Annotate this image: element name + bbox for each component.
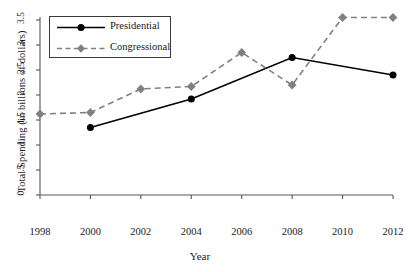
legend-item-presidential: Presidential xyxy=(50,17,172,38)
y-tick-label: 0 xyxy=(16,180,26,206)
x-tick-label: 2004 xyxy=(171,226,211,237)
data-point-congressional xyxy=(187,82,196,91)
y-tick-label: 1.5 xyxy=(16,105,26,131)
data-point-presidential xyxy=(188,96,195,103)
presidential-line-swatch-icon xyxy=(55,17,107,38)
data-point-congressional xyxy=(237,48,246,57)
y-tick-label: 2 xyxy=(16,80,26,106)
y-tick-label: 3 xyxy=(16,30,26,56)
y-tick-label: .5 xyxy=(16,155,26,181)
x-tick-label: 2000 xyxy=(70,226,110,237)
data-point-congressional xyxy=(389,13,398,22)
series-line-presidential xyxy=(90,58,393,128)
data-point-presidential xyxy=(289,54,296,61)
data-point-presidential xyxy=(390,72,397,79)
legend: Presidential Congressional xyxy=(49,16,171,58)
data-point-presidential xyxy=(87,124,94,131)
x-tick-label: 1998 xyxy=(20,226,60,237)
congressional-line-swatch-icon xyxy=(55,38,107,59)
y-tick-label: 3.5 xyxy=(16,5,26,31)
data-point-congressional xyxy=(36,110,45,119)
data-point-congressional xyxy=(338,13,347,22)
legend-item-congressional: Congressional xyxy=(50,38,172,59)
y-tick-label: 1 xyxy=(16,130,26,156)
legend-label-presidential: Presidential xyxy=(110,20,160,31)
x-tick-label: 2002 xyxy=(121,226,161,237)
y-tick-label: 2.5 xyxy=(16,55,26,81)
legend-label-congressional: Congressional xyxy=(110,41,170,52)
x-tick-label: 2008 xyxy=(272,226,312,237)
x-tick-label: 2006 xyxy=(222,226,262,237)
data-point-congressional xyxy=(86,108,95,117)
x-tick-label: 2012 xyxy=(373,226,408,237)
data-point-congressional xyxy=(136,85,145,94)
x-tick-label: 2010 xyxy=(323,226,363,237)
